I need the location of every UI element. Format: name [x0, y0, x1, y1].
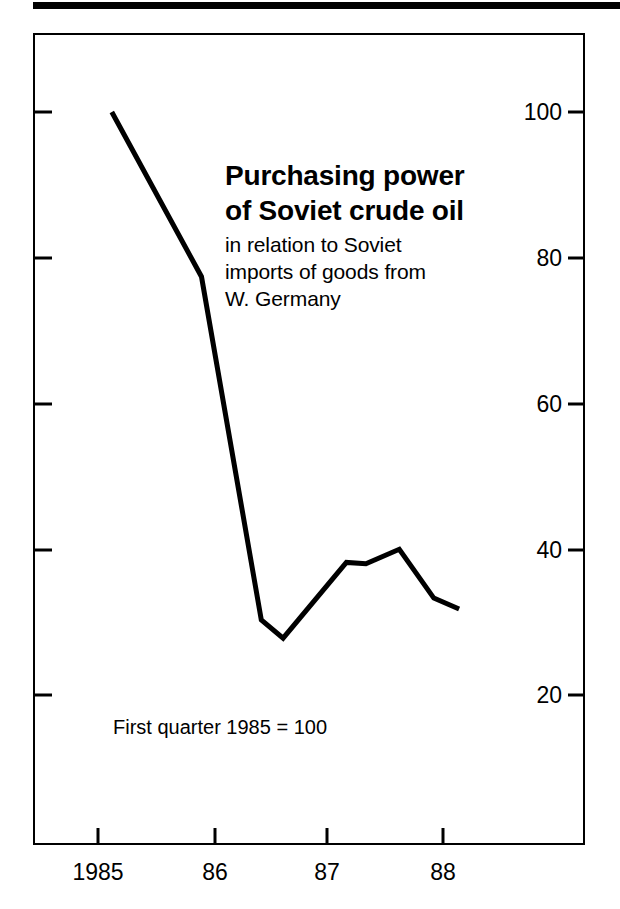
- y-tick-label-100: 100: [492, 101, 562, 124]
- chart-title-block: Purchasing power of Soviet crude oil in …: [225, 158, 525, 312]
- chart-subtitle-line-2: imports of goods from: [225, 258, 525, 285]
- x-tick-label-86: 86: [155, 861, 275, 884]
- chart-subtitle-block: in relation to Soviet imports of goods f…: [225, 231, 525, 312]
- x-tick-label-1985: 1985: [38, 861, 158, 884]
- chart-subtitle-line-3: W. Germany: [225, 285, 525, 312]
- top-rule-divider: [33, 2, 620, 9]
- x-tick-label-88: 88: [383, 861, 503, 884]
- chart-title-line-2: of Soviet crude oil: [225, 193, 525, 228]
- y-tick-label-40: 40: [492, 539, 562, 562]
- chart-figure: 100 80 60 40 20 1985 86 87 88 Purchasing…: [0, 0, 620, 909]
- chart-subtitle-line-1: in relation to Soviet: [225, 231, 525, 258]
- y-tick-label-60: 60: [492, 393, 562, 416]
- chart-footnote: First quarter 1985 = 100: [113, 716, 327, 739]
- chart-title-line-1: Purchasing power: [225, 158, 525, 193]
- y-tick-label-20: 20: [492, 684, 562, 707]
- x-tick-label-87: 87: [267, 861, 387, 884]
